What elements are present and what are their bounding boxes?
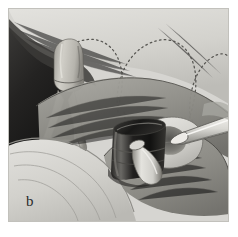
illustration-plate: b (8, 8, 229, 222)
figure-root: b (0, 0, 238, 237)
illustration-canvas (8, 8, 229, 222)
panel-label-b: b (26, 194, 34, 209)
